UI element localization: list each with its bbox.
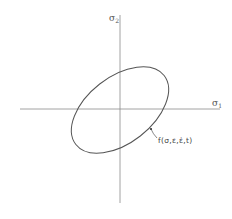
stress-space-diagram: σ2 σ1 f(σ,ε,ε̇,t) [0,0,232,219]
leader-arrow-dot [150,128,152,130]
leader-line [151,129,157,138]
curve-function-label: f(σ,ε,ε̇,t) [158,136,192,145]
sigma2-label: σ2 [109,13,119,24]
sigma1-label: σ1 [212,98,222,109]
